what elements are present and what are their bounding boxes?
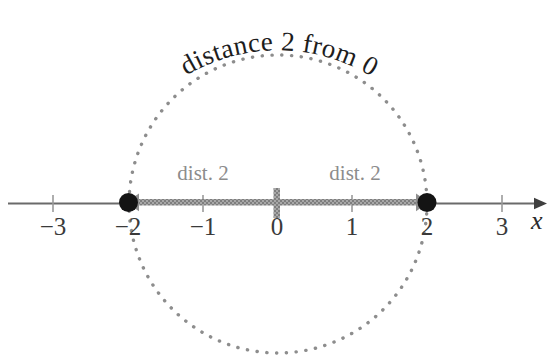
segment-left: [139, 199, 278, 206]
tick-label-pos1: 1: [346, 214, 359, 239]
solution-point-neg2: [119, 193, 138, 212]
dist-label-right: dist. 2: [329, 163, 380, 184]
tick-label-neg1: −1: [190, 214, 217, 239]
dist-label-left: dist. 2: [177, 163, 228, 184]
tick-label-pos3: 3: [496, 214, 509, 239]
tick-label-zero: 0: [271, 214, 284, 239]
solution-point-pos2: [418, 193, 437, 212]
tick-label-neg3: −3: [40, 214, 67, 239]
tick-label-pos2: 2: [421, 214, 434, 239]
figure-canvas: distance 2 from 0: [0, 0, 557, 356]
segment-right: [277, 199, 416, 206]
number-line-figure: distance 2 from 0 −3 −2 −1 0 1 2 3 dist.…: [0, 0, 557, 356]
axis-label-x: x: [531, 208, 543, 234]
tick-label-neg2: −2: [115, 214, 142, 239]
